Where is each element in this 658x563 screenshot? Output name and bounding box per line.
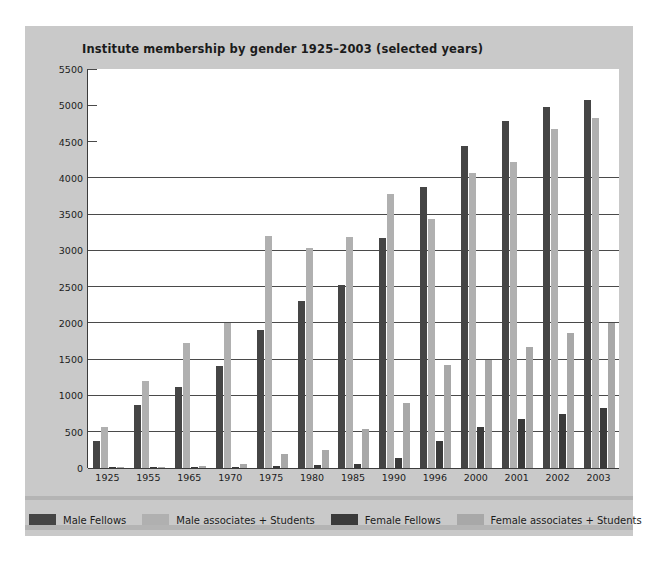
bar: [232, 467, 239, 468]
bar-group: [88, 69, 129, 468]
bar: [306, 248, 313, 468]
bar: [469, 173, 476, 468]
y-axis-tick-label: 5500: [59, 64, 83, 75]
bar: [101, 427, 108, 468]
bar: [362, 429, 369, 468]
x-axis-tick-label: 2003: [586, 472, 610, 483]
bar: [240, 464, 247, 468]
bar: [117, 467, 124, 468]
y-axis-tick-label: 0: [77, 463, 83, 474]
x-axis-tick-label: 1975: [259, 472, 283, 483]
bar-series-container: [88, 69, 619, 468]
x-axis-tick-label: 1955: [136, 472, 160, 483]
bar: [420, 187, 427, 468]
bar: [436, 441, 443, 468]
bar: [346, 237, 353, 468]
bar: [183, 343, 190, 468]
bar: [510, 162, 517, 468]
bar: [502, 121, 509, 468]
legend-rule-bottom: [25, 525, 633, 530]
bar: [600, 408, 607, 468]
legend-label: Male associates + Students: [176, 515, 315, 526]
chart-legend: Male FellowsMale associates + StudentsFe…: [25, 504, 633, 536]
bar: [608, 323, 615, 468]
x-axis-tick-label: 2000: [464, 472, 488, 483]
bar: [191, 467, 198, 468]
bar: [485, 360, 492, 468]
y-axis-tick-label: 2000: [59, 317, 83, 328]
bar: [354, 464, 361, 468]
x-axis-tick-label: 1980: [300, 472, 324, 483]
bar-group: [170, 69, 211, 468]
bar-group: [211, 69, 252, 468]
bar-group: [334, 69, 375, 468]
y-axis-tick-label: 4500: [59, 136, 83, 147]
bar-group: [415, 69, 456, 468]
bar-group: [252, 69, 293, 468]
y-axis-labels: 0500100015002000250030003500400045005000…: [47, 69, 83, 468]
bar: [387, 194, 394, 468]
chart-figure: Institute membership by gender 1925–2003…: [25, 26, 633, 536]
bar: [444, 365, 451, 468]
chart-title: Institute membership by gender 1925–2003…: [82, 42, 483, 56]
bar: [477, 427, 484, 468]
bar: [175, 387, 182, 468]
bar: [338, 285, 345, 468]
bar-group: [497, 69, 538, 468]
legend-label: Male Fellows: [63, 515, 126, 526]
bar: [142, 381, 149, 468]
x-axis-labels: 1925195519651970197519801985199019962000…: [87, 472, 619, 490]
bar: [150, 467, 157, 468]
bar: [567, 333, 574, 468]
bar: [526, 347, 533, 468]
bar: [93, 441, 100, 468]
legend-label: Female associates + Students: [491, 515, 642, 526]
y-axis-tick-label: 4000: [59, 172, 83, 183]
plot-area: [87, 69, 619, 468]
bar-group: [293, 69, 334, 468]
x-axis-tick-label: 2002: [546, 472, 570, 483]
bar-group: [129, 69, 170, 468]
bar: [281, 454, 288, 469]
bar: [314, 465, 321, 468]
bar-group: [538, 69, 579, 468]
legend-rule-top: [25, 496, 633, 500]
bar: [199, 466, 206, 468]
bar: [403, 403, 410, 468]
bar: [584, 100, 591, 468]
bar: [224, 323, 231, 468]
y-axis-tick-label: 5000: [59, 100, 83, 111]
bar: [298, 301, 305, 468]
bar: [322, 450, 329, 468]
y-axis-tick-label: 1000: [59, 390, 83, 401]
y-axis-tick-label: 3500: [59, 209, 83, 220]
bar: [273, 466, 280, 468]
bar: [461, 146, 468, 468]
x-axis-tick-label: 1925: [95, 472, 119, 483]
x-axis-tick-label: 2001: [505, 472, 529, 483]
x-axis-tick-label: 1996: [423, 472, 447, 483]
bar: [428, 219, 435, 468]
bar: [395, 458, 402, 468]
bar-group: [579, 69, 620, 468]
x-axis-tick-label: 1985: [341, 472, 365, 483]
bar: [543, 107, 550, 468]
y-axis-tick-label: 3000: [59, 245, 83, 256]
bar: [592, 118, 599, 468]
bar: [257, 330, 264, 468]
bar-group: [374, 69, 415, 468]
bar-group: [456, 69, 497, 468]
bar: [379, 238, 386, 468]
bar: [158, 467, 165, 468]
bar: [559, 414, 566, 468]
legend-label: Female Fellows: [365, 515, 441, 526]
y-axis-tick-label: 1500: [59, 354, 83, 365]
bar: [216, 366, 223, 468]
x-axis-tick-label: 1990: [382, 472, 406, 483]
bar: [109, 467, 116, 468]
x-axis-tick-label: 1965: [177, 472, 201, 483]
bar: [551, 129, 558, 469]
bar: [134, 405, 141, 468]
bar: [518, 419, 525, 468]
bar: [265, 236, 272, 468]
